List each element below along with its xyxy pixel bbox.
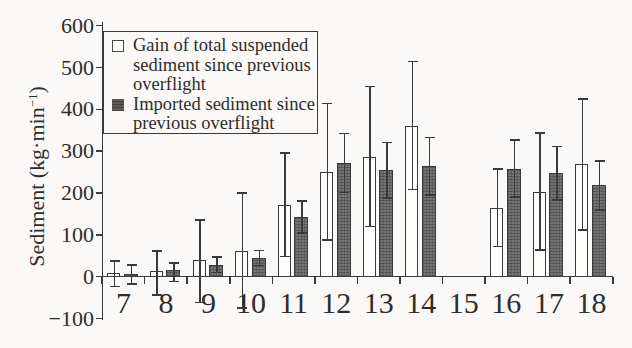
y-tick (96, 25, 103, 27)
legend-item-imported: Imported sediment since previous overfli… (112, 95, 317, 134)
y-tick-label: 100 (30, 222, 94, 248)
errorbar-cap-bottom-gain-7 (110, 286, 120, 288)
errorbar-imported-18 (599, 161, 601, 210)
x-tick-label: 13 (357, 287, 401, 319)
x-tick (314, 277, 316, 285)
x-tick-label: 10 (229, 287, 273, 319)
errorbar-cap-top-gain-10 (237, 192, 247, 194)
errorbar-gain-17 (539, 133, 541, 250)
errorbar-imported-14 (429, 137, 431, 195)
errorbar-cap-bottom-imported-16 (510, 196, 520, 198)
legend-imported-line-1: Imported sediment since (133, 95, 315, 115)
errorbar-cap-top-imported-16 (510, 139, 520, 141)
errorbar-imported-9 (216, 257, 218, 272)
errorbar-cap-top-gain-14 (408, 61, 418, 63)
y-tick (96, 234, 103, 236)
x-tick-label: 18 (569, 287, 613, 319)
x-tick-label: 14 (399, 287, 443, 319)
errorbar-cap-bottom-gain-18 (578, 229, 588, 231)
y-tick-label: 400 (30, 96, 94, 122)
legend-gain-line-3: overflight (133, 75, 311, 95)
x-tick (101, 277, 103, 285)
errorbar-gain-12 (327, 104, 329, 240)
y-tick-label: 300 (30, 138, 94, 164)
x-tick (229, 277, 231, 285)
x-tick-label: 9 (187, 287, 231, 319)
errorbar-cap-bottom-imported-13 (382, 197, 392, 199)
errorbar-cap-bottom-gain-11 (280, 256, 290, 258)
x-tick-label: 16 (484, 287, 528, 319)
errorbar-cap-top-gain-16 (493, 168, 503, 170)
x-tick-label: 17 (527, 287, 571, 319)
y-axis-title-close: ) (24, 86, 49, 93)
errorbar-imported-11 (301, 201, 303, 233)
errorbar-cap-top-gain-17 (535, 132, 545, 134)
errorbar-cap-top-gain-11 (280, 152, 290, 154)
errorbar-cap-top-gain-18 (578, 98, 588, 100)
errorbar-cap-bottom-imported-17 (552, 199, 562, 201)
x-tick-label: 8 (144, 287, 188, 319)
y-tick-label: 600 (30, 13, 94, 39)
errorbar-gain-14 (412, 62, 414, 190)
errorbar-cap-bottom-imported-18 (595, 209, 605, 211)
x-tick (527, 277, 529, 285)
errorbar-cap-top-gain-7 (110, 260, 120, 262)
errorbar-cap-top-imported-12 (339, 133, 349, 135)
x-tick (186, 277, 188, 285)
errorbar-cap-bottom-imported-11 (297, 232, 307, 234)
x-tick-label: 15 (442, 287, 486, 319)
y-tick (96, 192, 103, 194)
errorbar-cap-top-imported-10 (254, 250, 264, 252)
errorbar-imported-10 (259, 250, 261, 265)
errorbar-cap-bottom-gain-13 (365, 226, 375, 228)
errorbar-cap-top-imported-9 (212, 256, 222, 258)
errorbar-cap-bottom-gain-12 (322, 239, 332, 241)
errorbar-gain-18 (582, 99, 584, 230)
x-tick (399, 277, 401, 285)
legend: Gain of total suspended sediment since p… (103, 31, 318, 134)
legend-item-gain: Gain of total suspended sediment since p… (112, 36, 317, 95)
errorbar-cap-bottom-gain-14 (408, 189, 418, 191)
errorbar-cap-top-imported-11 (297, 200, 307, 202)
errorbar-cap-top-imported-18 (595, 160, 605, 162)
errorbar-cap-top-gain-13 (365, 86, 375, 88)
x-tick-label: 12 (314, 287, 358, 319)
y-tick-label: −100 (30, 306, 94, 332)
errorbar-cap-bottom-gain-9 (195, 302, 205, 304)
errorbar-cap-bottom-gain-8 (152, 294, 162, 296)
x-tick (357, 277, 359, 285)
y-tick-label: 0 (30, 264, 94, 290)
errorbar-cap-bottom-imported-12 (339, 192, 349, 194)
legend-gain-line-2: sediment since previous (133, 56, 311, 76)
x-tick (484, 277, 486, 285)
errorbar-gain-9 (199, 220, 201, 302)
x-tick (569, 277, 571, 285)
errorbar-gain-16 (497, 169, 499, 246)
x-tick (612, 277, 614, 285)
errorbar-imported-16 (514, 140, 516, 197)
errorbar-cap-bottom-imported-7 (127, 283, 137, 285)
x-tick (442, 277, 444, 285)
y-tick (96, 109, 103, 111)
errorbar-cap-bottom-imported-9 (212, 272, 222, 274)
errorbar-cap-bottom-gain-10 (237, 307, 247, 309)
y-tick-label: 200 (30, 180, 94, 206)
x-tick-label: 7 (101, 287, 145, 319)
errorbar-cap-top-imported-13 (382, 142, 392, 144)
errorbar-cap-bottom-imported-14 (425, 194, 435, 196)
errorbar-imported-17 (556, 147, 558, 201)
legend-label-gain: Gain of total suspended sediment since p… (133, 36, 311, 95)
errorbar-cap-top-imported-8 (169, 262, 179, 264)
filled-square-icon (112, 99, 124, 111)
legend-imported-line-2: previous overflight (133, 114, 315, 134)
x-tick (272, 277, 274, 285)
y-tick (96, 150, 103, 152)
x-tick (144, 277, 146, 285)
x-tick-label: 11 (272, 287, 316, 319)
errorbar-cap-bottom-gain-16 (493, 246, 503, 248)
errorbar-cap-top-imported-7 (127, 264, 137, 266)
errorbar-cap-bottom-gain-17 (535, 249, 545, 251)
y-tick-label: 500 (30, 55, 94, 81)
open-square-icon (112, 40, 124, 52)
errorbar-cap-top-gain-8 (152, 250, 162, 252)
